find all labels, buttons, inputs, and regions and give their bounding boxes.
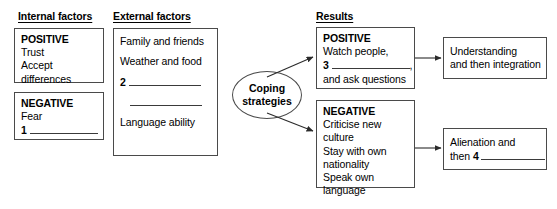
box-results-negative: NEGATIVE Criticise new culture Stay with… — [316, 100, 415, 188]
box-internal-positive: POSITIVE Trust Accept differences — [14, 28, 104, 83]
coping-line-1: Coping — [242, 82, 292, 95]
outcome-negative-line-2-prefix: then — [450, 150, 470, 162]
internal-positive-label: POSITIVE — [21, 33, 98, 46]
gap-number-3: 3 — [323, 59, 329, 71]
external-item-3: Language ability — [120, 116, 212, 129]
gap-number-4: 4 — [473, 150, 479, 162]
spacer-3 — [120, 109, 212, 116]
internal-positive-item-3: differences — [21, 73, 98, 86]
spacer-1 — [120, 48, 212, 55]
internal-positive-item-2: Accept — [21, 59, 98, 72]
outcome-negative-gap: then 4 — [450, 149, 541, 163]
gap-blank-2-continued[interactable] — [130, 95, 202, 106]
culture-shock-diagram: Internal factors External factors Result… — [0, 0, 557, 209]
outcome-positive-line-2: and then integration — [450, 58, 541, 71]
results-negative-line-2: Stay with own — [323, 145, 409, 158]
spacer-2 — [120, 68, 212, 75]
gap-blank-1[interactable] — [30, 123, 98, 134]
box-outcome-negative: Alienation and then 4 — [443, 128, 547, 170]
external-gap: 2 — [120, 75, 212, 89]
results-negative-line-3: nationality — [323, 158, 409, 171]
heading-external-factors: External factors — [113, 10, 191, 22]
results-positive-line-3: and ask questions — [323, 73, 409, 86]
results-negative-line-5: language — [323, 184, 409, 197]
results-negative-line-4: Speak own — [323, 171, 409, 184]
outcome-negative-line-1: Alienation and — [450, 136, 541, 149]
results-positive-label: POSITIVE — [323, 32, 409, 45]
results-positive-line-1: Watch people, — [323, 45, 409, 58]
box-results-positive: POSITIVE Watch people, 3 , and ask quest… — [316, 27, 415, 89]
gap-3-suffix: , — [410, 59, 413, 71]
internal-positive-item-1: Trust — [21, 46, 98, 59]
heading-internal-factors: Internal factors — [18, 10, 92, 22]
internal-negative-gap: 1 — [21, 123, 98, 137]
box-internal-negative: NEGATIVE Fear 1 — [14, 92, 104, 140]
external-gap-line2 — [120, 95, 212, 109]
internal-negative-label: NEGATIVE — [21, 97, 98, 110]
internal-negative-item-1: Fear — [21, 110, 98, 123]
results-negative-label: NEGATIVE — [323, 105, 409, 118]
oval-coping-strategies: Coping strategies — [232, 71, 302, 119]
box-outcome-positive: Understanding and then integration — [443, 37, 547, 79]
box-external-factors: Family and friends Weather and food 2 La… — [113, 28, 218, 156]
gap-blank-3[interactable] — [332, 58, 410, 69]
heading-results: Results — [316, 10, 353, 22]
gap-blank-4[interactable] — [481, 149, 545, 160]
results-negative-line-1: Criticise new culture — [323, 118, 409, 144]
gap-blank-2[interactable] — [129, 75, 201, 86]
outcome-positive-line-1: Understanding — [450, 45, 541, 58]
external-item-1: Family and friends — [120, 35, 212, 48]
gap-number-1: 1 — [21, 124, 27, 136]
results-positive-gap: 3 , — [323, 58, 409, 72]
coping-line-2: strategies — [242, 95, 292, 108]
external-item-2: Weather and food — [120, 55, 212, 68]
gap-number-2: 2 — [120, 76, 126, 88]
